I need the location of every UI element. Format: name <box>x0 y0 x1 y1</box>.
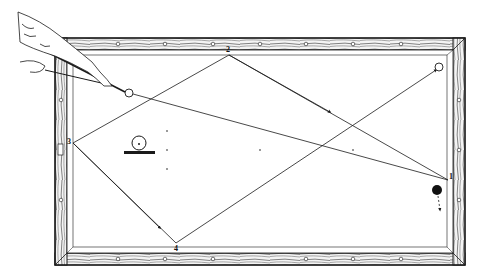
cue-ball <box>125 89 133 97</box>
rail-marker <box>58 144 63 155</box>
object-ball-top-right <box>435 63 443 71</box>
object-ball-black <box>432 185 442 195</box>
cushion-label-2: 2 <box>226 46 230 54</box>
cushion-label-3: 3 <box>67 138 71 146</box>
cushion-label-4: 4 <box>174 245 178 253</box>
cushion-label-1: 1 <box>449 173 453 181</box>
billiards-diagram <box>0 0 492 277</box>
